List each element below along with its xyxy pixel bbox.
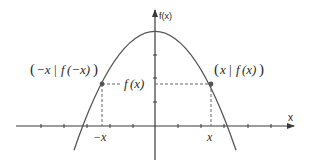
svg-text:−x: −x: [36, 62, 51, 77]
dashed-guides: [102, 84, 211, 126]
x-axis-label: x: [288, 112, 293, 123]
point-left: [100, 82, 105, 87]
tick-label-x: x: [206, 130, 213, 144]
function-graph: x f(x) ( −x | f (−x) ) ( x | f (x): [0, 0, 310, 161]
svg-text:): ): [93, 61, 98, 78]
svg-text:|: |: [229, 62, 232, 77]
point-right-label: ( x | f (x) ): [214, 61, 264, 78]
svg-text:|: |: [54, 62, 57, 77]
point-right: [209, 82, 214, 87]
svg-text:(: (: [30, 61, 35, 78]
svg-text:): ): [259, 61, 264, 78]
svg-text:x: x: [219, 62, 226, 77]
svg-text:(x): (x): [242, 62, 256, 77]
point-left-label: ( −x | f (−x) ): [30, 61, 98, 78]
tick-label-neg-x: −x: [93, 130, 107, 144]
svg-text:(: (: [214, 61, 219, 78]
svg-text:(x): (x): [130, 76, 144, 91]
y-axis-label: f(x): [159, 11, 172, 21]
svg-text:(−x): (−x): [67, 62, 90, 77]
fx-label: f (x): [120, 74, 153, 91]
